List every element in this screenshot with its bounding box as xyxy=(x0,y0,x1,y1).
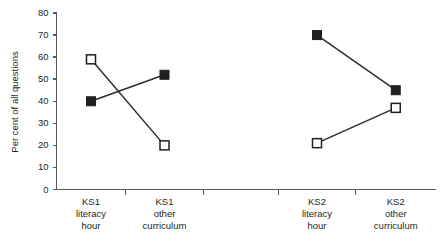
x-axis-category-label: KS2literacyhour xyxy=(302,196,332,231)
data-point-marker-filled-square xyxy=(391,86,400,95)
x-axis-tick-labels: KS1literacyhourKS1othercurriculumKS2lite… xyxy=(76,196,418,231)
y-axis: 01020304050607080 xyxy=(38,7,57,195)
x-axis-category-label-line: KS2 xyxy=(387,196,405,207)
data-point-marker-filled-square xyxy=(87,97,96,106)
y-axis-tick-label: 80 xyxy=(38,7,49,18)
y-axis-tick-label: 30 xyxy=(38,117,49,128)
x-axis-category-label-line: KS1 xyxy=(156,196,174,207)
data-point-marker-filled-square xyxy=(313,31,322,40)
x-axis-category-label-line: literacy xyxy=(76,208,106,219)
y-axis-tick-label: 40 xyxy=(38,95,49,106)
x-axis-category-label-line: KS2 xyxy=(308,196,326,207)
y-axis-tick-label: 0 xyxy=(43,184,48,195)
x-axis-category-label-line: curriculum xyxy=(143,220,187,231)
x-axis-category-label-line: curriculum xyxy=(374,220,418,231)
x-axis-category-label-line: KS1 xyxy=(82,196,100,207)
x-axis-category-label-line: hour xyxy=(307,220,326,231)
y-axis-tick-label: 70 xyxy=(38,29,49,40)
y-axis-tick-labels: 01020304050607080 xyxy=(38,7,49,195)
x-axis-category-label-line: other xyxy=(154,208,176,219)
series-markers xyxy=(87,31,401,150)
x-axis-category-label-line: other xyxy=(385,208,407,219)
data-point-marker-open-square xyxy=(313,139,322,148)
series-line-segment xyxy=(91,75,165,101)
chart-container: Per cent of all questions 01020304050607… xyxy=(0,0,445,243)
x-axis-category-label: KS1literacyhour xyxy=(76,196,106,231)
x-axis: KS1literacyhourKS1othercurriculumKS2lite… xyxy=(57,190,437,231)
series-line-segment xyxy=(317,35,396,90)
data-point-marker-open-square xyxy=(87,55,96,64)
data-point-marker-open-square xyxy=(160,141,169,150)
series-line-segment xyxy=(317,108,396,143)
x-axis-category-label-line: hour xyxy=(81,220,100,231)
line-chart: Per cent of all questions 01020304050607… xyxy=(0,0,445,243)
x-axis-category-label-line: literacy xyxy=(302,208,332,219)
y-axis-title: Per cent of all questions xyxy=(9,51,20,153)
series-line-segment xyxy=(91,59,165,145)
x-axis-category-label: KS2othercurriculum xyxy=(374,196,418,231)
y-axis-tick-label: 10 xyxy=(38,161,49,172)
y-axis-tick-label: 50 xyxy=(38,73,49,84)
data-point-marker-open-square xyxy=(391,103,400,112)
x-axis-category-label: KS1othercurriculum xyxy=(143,196,187,231)
y-axis-title-text: Per cent of all questions xyxy=(9,51,20,153)
y-axis-tick-label: 20 xyxy=(38,139,49,150)
y-axis-tick-label: 60 xyxy=(38,51,49,62)
series-lines xyxy=(91,35,396,145)
data-point-marker-filled-square xyxy=(160,70,169,79)
